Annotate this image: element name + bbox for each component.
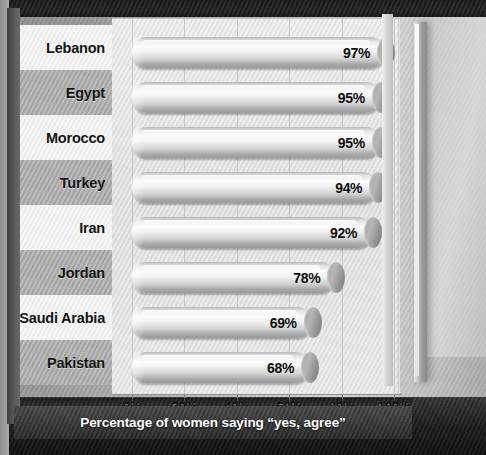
bar-highlight (142, 220, 357, 228)
bar-end-cap (301, 352, 319, 383)
bar-value-label: 94% (335, 180, 362, 196)
category-label-morocco: Morocco (20, 115, 112, 160)
x-axis-caption-band: Percentage of women saying “yes, agree” (14, 406, 412, 439)
bar-left-cap (131, 262, 145, 293)
bar-row: 68% (112, 345, 400, 390)
bar-left-cap (131, 217, 145, 248)
category-label-text: Iran (79, 220, 105, 236)
category-label-text: Pakistan (47, 355, 105, 371)
bar-value-label: 68% (267, 360, 294, 376)
bar-row: 97% (112, 30, 400, 75)
bar-value-label: 95% (338, 90, 365, 106)
bar-value-label: 95% (338, 135, 365, 151)
bar-row: 95% (112, 75, 400, 120)
bar-row: 94% (112, 165, 400, 210)
bar-left-cap (131, 307, 145, 338)
clipped-title (150, 0, 340, 9)
bar-end-cap (364, 217, 382, 248)
bar-highlight (142, 40, 370, 48)
category-label-text: Morocco (46, 130, 105, 146)
bar-row: 95% (112, 120, 400, 165)
left-spine (7, 8, 20, 424)
bar-end-cap (327, 262, 345, 293)
bar-left-cap (131, 352, 145, 383)
bar-row: 92% (112, 210, 400, 255)
background-pillar-highlight (415, 24, 419, 376)
x-axis-label: Percentage of women saying “yes, agree” (80, 415, 345, 430)
bar-row: 69% (112, 300, 400, 345)
category-label-turkey: Turkey (20, 160, 112, 205)
category-label-text: Lebanon (46, 40, 105, 56)
category-label-lebanon: Lebanon (20, 25, 112, 70)
bar-lebanon: 97% (132, 37, 386, 68)
category-label-column: LebanonEgyptMoroccoTurkeyIranJordanSaudi… (20, 25, 112, 387)
bar-highlight (142, 130, 365, 138)
category-label-text: Saudi Arabia (19, 310, 105, 326)
bar-pakistan: 68% (132, 352, 310, 383)
bar-left-cap (131, 172, 145, 203)
chart-screenshot: LebanonEgyptMoroccoTurkeyIranJordanSaudi… (0, 0, 486, 455)
category-label-egypt: Egypt (20, 70, 112, 115)
category-label-text: Jordan (58, 265, 105, 281)
bar-highlight (142, 175, 362, 183)
bar-left-cap (131, 37, 145, 68)
bar-morocco: 95% (132, 127, 381, 158)
chart-card: LebanonEgyptMoroccoTurkeyIranJordanSaudi… (20, 14, 412, 398)
bar-end-cap (304, 307, 322, 338)
plot-area: 97%95%95%94%92%78%69%68% (112, 18, 400, 395)
plot-right-edge (398, 19, 400, 395)
bar-iran: 92% (132, 217, 373, 248)
bar-value-label: 78% (293, 270, 320, 286)
category-label-iran: Iran (20, 205, 112, 250)
category-label-saudi-arabia: Saudi Arabia (20, 295, 112, 340)
category-label-jordan: Jordan (20, 250, 112, 295)
bar-jordan: 78% (132, 262, 336, 293)
chart-right-wall (382, 14, 393, 386)
category-label-pakistan: Pakistan (20, 340, 112, 385)
category-label-text: Egypt (66, 85, 105, 101)
category-label-text: Turkey (60, 175, 105, 191)
background-right-highlight (422, 17, 486, 357)
bar-left-cap (131, 127, 145, 158)
bar-turkey: 94% (132, 172, 378, 203)
bar-egypt: 95% (132, 82, 381, 113)
bar-left-cap (131, 82, 145, 113)
bar-saudi-arabia: 69% (132, 307, 313, 338)
bar-series: 97%95%95%94%92%78%69%68% (112, 19, 400, 395)
bar-value-label: 97% (343, 45, 370, 61)
bar-value-label: 92% (330, 225, 357, 241)
bar-value-label: 69% (270, 315, 297, 331)
bar-highlight (142, 85, 365, 93)
bar-row: 78% (112, 255, 400, 300)
